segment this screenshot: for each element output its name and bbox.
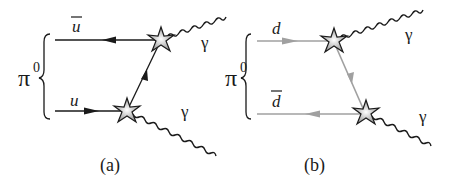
pion-label: π [225, 65, 237, 91]
vertex-star-icon [114, 98, 140, 122]
vertex-star-icon [148, 27, 174, 51]
caption-a: (a) [100, 155, 120, 176]
brace [39, 34, 50, 119]
arrow-left-icon [305, 111, 320, 118]
photon-wave-top [167, 17, 226, 37]
arrow-up-icon [141, 69, 148, 81]
photon-wave-bottom [133, 114, 216, 156]
photon-label-top: γ [404, 25, 413, 44]
pion-label: π [18, 65, 30, 91]
panel-b: π 0 d d γ γ (b) [225, 10, 431, 176]
quark-label-top: u [72, 17, 81, 36]
arrow-right-icon [282, 38, 298, 45]
pion-superscript: 0 [33, 60, 40, 75]
arrow-down-icon [347, 72, 354, 84]
quark-label-bottom: d [272, 92, 281, 111]
quark-label-bottom: u [70, 91, 79, 110]
vertex-star-icon [321, 28, 347, 52]
photon-label-bottom: γ [418, 107, 427, 126]
panel-a: π 0 u u γ γ (a) [18, 17, 226, 176]
caption-b: (b) [304, 155, 325, 176]
vertex-star-icon [353, 100, 379, 124]
arrow-left-icon [102, 37, 116, 44]
feynman-diagrams: π 0 u u γ γ (a) π 0 d [0, 0, 454, 184]
quark-label-top: d [272, 19, 281, 38]
photon-label-bottom: γ [180, 102, 189, 121]
arrow-right-icon [84, 108, 99, 115]
photon-label-top: γ [200, 33, 209, 52]
brace [241, 34, 251, 119]
